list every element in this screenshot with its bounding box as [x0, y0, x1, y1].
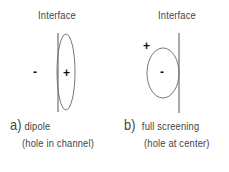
interface-title-b: Interface — [158, 9, 196, 21]
interface-title-a: Interface — [38, 9, 76, 21]
caption-a: a) dipole — [10, 116, 50, 133]
caption-b: b) full screening — [124, 116, 199, 133]
subcaption-a: (hole in channel) — [22, 137, 94, 149]
plus-sign-a: + — [63, 67, 70, 79]
caption-letter-a: a) — [10, 116, 22, 133]
subcaption-b: (hole at center) — [144, 137, 210, 149]
caption-letter-b: b) — [124, 116, 136, 133]
caption-text-a: dipole — [24, 120, 50, 132]
plus-sign-b: + — [143, 40, 150, 52]
caption-text-b: full screening — [142, 120, 199, 132]
minus-sign-b: - — [160, 66, 164, 78]
minus-sign-a: - — [33, 66, 37, 78]
